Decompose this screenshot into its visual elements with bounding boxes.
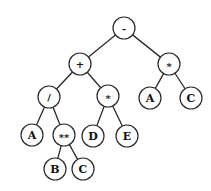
tree-node: ** <box>53 124 75 146</box>
node-label: * <box>166 61 172 72</box>
tree-node: - <box>113 17 135 39</box>
tree-node: C <box>180 87 202 109</box>
tree-edge <box>113 106 123 126</box>
node-label: A <box>145 92 155 105</box>
tree-edge <box>36 107 44 125</box>
tree-edge <box>87 72 101 87</box>
node-label: / <box>47 92 51 103</box>
tree-edge <box>89 35 116 57</box>
node-label: D <box>88 130 98 143</box>
node-label: E <box>123 130 131 143</box>
tree-node: E <box>116 125 138 147</box>
node-label: * <box>105 93 111 104</box>
tree-node: A <box>21 124 43 146</box>
node-label: + <box>76 59 84 70</box>
tree-edge <box>97 106 104 125</box>
tree-node: A <box>139 87 161 109</box>
tree-edge <box>69 145 77 160</box>
tree-edge <box>53 107 60 125</box>
tree-edge <box>175 73 185 89</box>
tree-node: * <box>97 85 119 107</box>
node-label: C <box>187 92 196 105</box>
expression-tree-diagram: -+*/*ACA**DEBC <box>0 0 211 191</box>
tree-nodes: -+*/*ACA**DEBC <box>21 17 202 180</box>
tree-node: B <box>44 158 66 180</box>
tree-node: D <box>82 125 104 147</box>
node-label: ** <box>59 132 70 143</box>
tree-node: + <box>69 53 91 75</box>
tree-edge <box>57 72 73 89</box>
tree-node: C <box>72 158 94 180</box>
node-label: A <box>27 129 37 142</box>
tree-edge <box>155 74 163 89</box>
tree-node: * <box>158 53 180 75</box>
node-label: - <box>122 23 126 34</box>
tree-node: / <box>38 86 60 108</box>
node-label: C <box>79 163 88 176</box>
tree-edge <box>133 35 161 57</box>
node-label: B <box>50 163 59 176</box>
tree-edge <box>58 146 61 159</box>
